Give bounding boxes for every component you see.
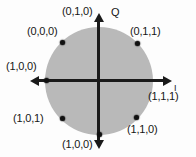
q-axis-arrow-down xyxy=(94,140,104,149)
point-label-lower-left: (1,0,1) xyxy=(13,113,43,124)
point-label-top: (0,1,0) xyxy=(62,6,92,17)
point-label-left: (1,0,0) xyxy=(6,61,36,72)
point-label-upper-right: (0,1,1) xyxy=(130,26,160,37)
q-axis-label: Q xyxy=(111,7,120,18)
point-label-bottom: (1,0,0) xyxy=(62,139,92,150)
i-axis-arrow-left xyxy=(30,76,39,86)
q-axis-arrow-up xyxy=(94,13,104,22)
constellation-point xyxy=(97,132,102,137)
constellation-point xyxy=(44,78,49,83)
constellation-point xyxy=(134,115,139,120)
point-label-lower-right: (1,1,0) xyxy=(127,124,157,135)
point-label-upper-left: (0,0,0) xyxy=(27,26,57,37)
q-axis-line xyxy=(97,22,100,142)
point-label-right: (1,1,1) xyxy=(148,91,178,102)
i-axis-line xyxy=(38,79,164,82)
constellation-point xyxy=(60,40,65,45)
constellation-point xyxy=(135,41,140,46)
constellation-point xyxy=(60,116,65,121)
i-axis-arrow-right xyxy=(163,76,172,86)
constellation-figure: Q I (0,1,0) (0,0,0) (0,1,1) (1,0,0) (1,1… xyxy=(0,0,196,157)
